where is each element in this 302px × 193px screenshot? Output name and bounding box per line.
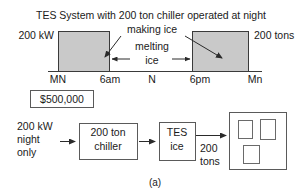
tes-label-line1: TES <box>167 126 187 138</box>
flow-input-line1: 200 kW <box>17 120 53 132</box>
bar-making-ice-left <box>59 32 110 72</box>
flow-output-line1: 200 <box>200 142 218 154</box>
cost-value: $500,000 <box>40 93 84 105</box>
tick-label-6am: 6am <box>100 73 121 85</box>
tick-label-mn-end: Mn <box>248 73 263 85</box>
building-window-bottom <box>244 146 260 164</box>
tick-label-mn-start: MN <box>50 73 66 85</box>
annotation-melting: melting <box>135 40 169 52</box>
flow-input-line3: only <box>17 146 37 158</box>
chiller-label-line2: chiller <box>94 140 122 152</box>
building-window-top-left <box>239 121 253 139</box>
tick-label-6pm: 6pm <box>190 73 211 85</box>
flow-input-line2: night <box>17 133 40 145</box>
tes-label-line2: ice <box>170 140 184 152</box>
annotation-making-ice: making ice <box>127 23 177 35</box>
building-window-top-right <box>261 120 276 140</box>
tick-label-noon: N <box>148 73 156 85</box>
chiller-label-line1: 200 ton <box>90 126 125 138</box>
bar-making-ice-right <box>193 32 249 72</box>
tes-system-figure: TES System with 200 ton chiller operated… <box>0 0 302 193</box>
figure-container: TES System with 200 ton chiller operated… <box>0 0 302 193</box>
annotation-ice: ice <box>145 54 159 66</box>
chart-title: TES System with 200 ton chiller operated… <box>36 9 266 21</box>
left-axis-label: 200 kW <box>18 29 54 41</box>
flow-output-line2: tons <box>200 155 220 167</box>
figure-caption: (a) <box>149 177 161 188</box>
right-axis-label: 200 tons <box>254 29 294 41</box>
